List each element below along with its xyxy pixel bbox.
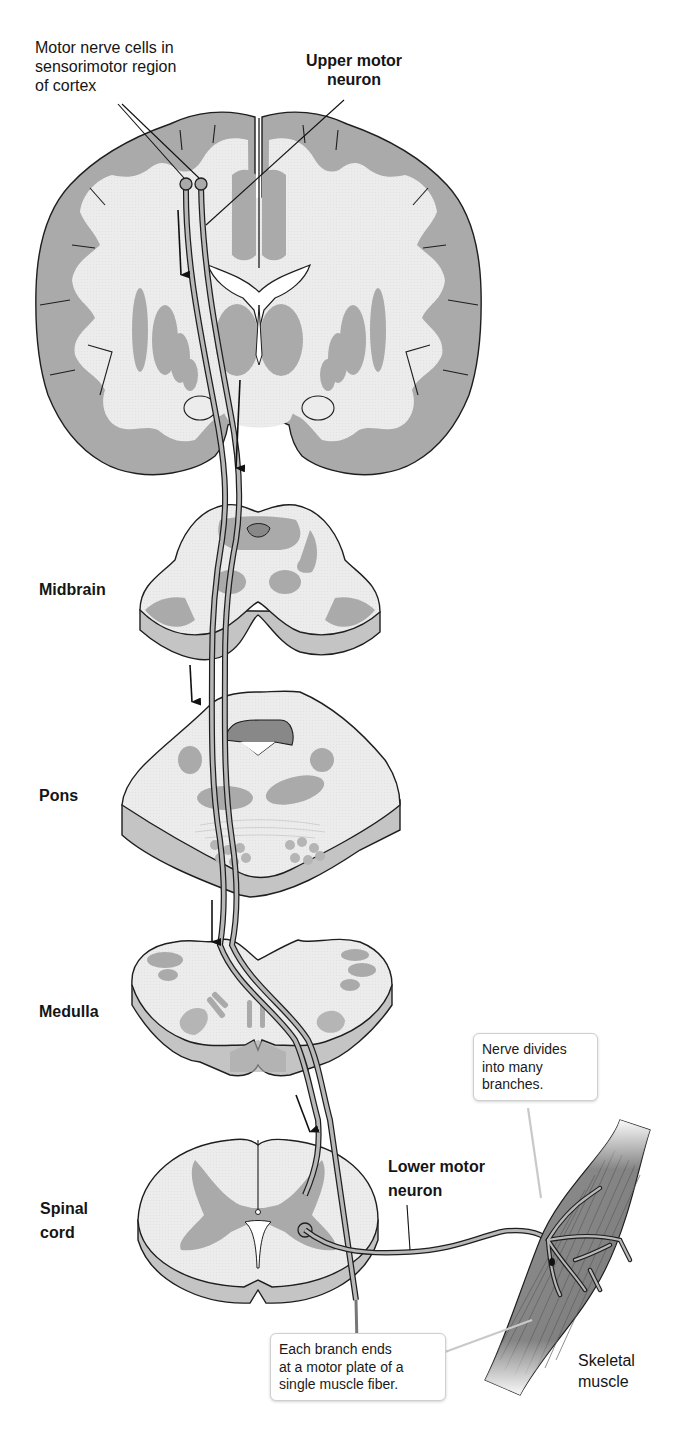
down-arrow-icon [296, 1095, 310, 1132]
upper-motor-neuron-label: Upper motor neuron [292, 51, 416, 89]
motor-cell-body-1 [180, 178, 192, 190]
midbrain-label: Midbrain [39, 580, 106, 599]
motor-cell-body-2 [195, 178, 207, 190]
medulla-label: Medulla [39, 1002, 99, 1021]
branch-ends-callout: Each branch ends at a motor plate of a s… [270, 1333, 446, 1401]
motor-pathway-illustration [0, 0, 683, 1448]
pons-section [122, 691, 400, 897]
nerve-divides-callout: Nerve divides into many branches. [473, 1033, 598, 1101]
skeletal-muscle-label: Skeletal muscle [578, 1350, 635, 1392]
cortex-cells-label: Motor nerve cells in sensorimotor region… [35, 38, 176, 95]
brain-coronal-section [36, 112, 481, 475]
lower-motor-neuron-label: Lower motor neuron [388, 1155, 485, 1203]
down-arrow-icon [190, 665, 192, 702]
midbrain-section [140, 505, 380, 660]
spinal-cord-label: Spinal cord [40, 1197, 88, 1245]
pons-label: Pons [39, 786, 78, 805]
medulla-section [132, 939, 392, 1076]
